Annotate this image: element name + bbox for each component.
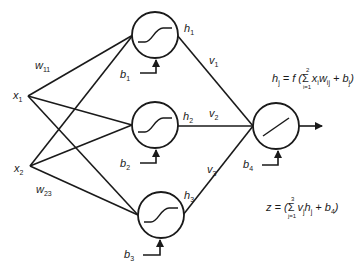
output-formula: z = (Σvjhj + b4) 3 j=1 — [265, 196, 339, 219]
edge-x1-h2 — [28, 96, 132, 125]
bias-arrow-b2 — [140, 150, 156, 163]
hidden-neuron-h2 — [132, 102, 178, 163]
hidden-layer-formula: hj = f (Σxiwij + bj) 2 i=1 — [272, 67, 354, 90]
output-weight-label-v1: v1 — [209, 54, 219, 68]
svg-text:z = (Σvjhj + b4): z = (Σvjhj + b4) — [265, 201, 339, 216]
svg-text:hj = f (Σxiwij + bj): hj = f (Σxiwij + bj) — [272, 72, 354, 87]
hidden-output-connections — [177, 35, 322, 215]
bias-arrow-b1 — [140, 60, 156, 73]
hidden-neuron-h3 — [138, 192, 184, 255]
bias-label-b3: b3 — [124, 248, 134, 262]
weight-label-w11: w11 — [35, 59, 50, 73]
edge-x1-h3 — [28, 96, 138, 215]
bias-label-b2: b2 — [120, 157, 130, 171]
sum-upper-limit: 2 — [306, 67, 310, 73]
bias-label-b4: b4 — [243, 158, 253, 172]
bias-arrow-b4 — [262, 151, 278, 165]
output-neuron — [253, 103, 299, 165]
hidden-label-h3: h3 — [184, 189, 194, 203]
output-weight-label-v2: v2 — [209, 107, 219, 121]
output-weight-label-v3: v3 — [207, 163, 217, 177]
weight-label-w23: w23 — [36, 183, 52, 197]
hidden-label-h2: h2 — [183, 110, 193, 124]
bias-label-b1: b1 — [120, 68, 130, 82]
input-hidden-connections — [28, 35, 138, 215]
hidden-neuron-h1 — [132, 12, 178, 73]
sum-lower-limit: j=1 — [287, 213, 297, 219]
hidden-label-h1: h1 — [184, 22, 194, 36]
sum-lower-limit: i=1 — [303, 84, 312, 90]
bias-arrow-b3 — [143, 240, 160, 255]
neural-network-diagram: x1 x2 w11 w23 h1 h2 h3 b1 b2 b3 b4 v1 v2… — [0, 0, 363, 275]
input-label-x1: x1 — [12, 89, 23, 103]
input-label-x2: x2 — [13, 162, 24, 176]
